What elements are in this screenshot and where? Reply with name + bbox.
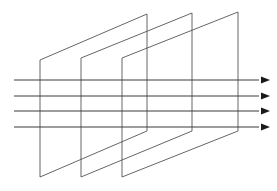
ray-4-arrowhead-icon (261, 124, 270, 131)
plane-3 (122, 12, 238, 177)
ray-1-arrowhead-icon (261, 77, 270, 84)
diagram-svg (0, 0, 277, 191)
planes-group (40, 12, 238, 177)
diagram-canvas (0, 0, 277, 191)
rays-group (14, 77, 270, 131)
ray-2-arrowhead-icon (261, 93, 270, 100)
ray-3-arrowhead-icon (261, 108, 270, 115)
